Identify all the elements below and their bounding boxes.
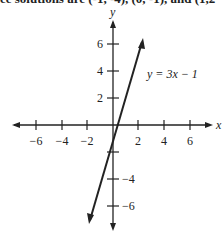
svg-text:−6: −6	[30, 134, 43, 148]
svg-text:−2: −2	[81, 134, 94, 148]
y-axis-up-arrow-icon	[110, 20, 116, 28]
y-axis-label: y	[109, 5, 116, 19]
x-axis-label: x	[215, 118, 222, 132]
svg-text:−4: −4	[122, 172, 135, 186]
svg-text:2: 2	[135, 134, 141, 148]
y-axis-down-arrow-icon	[110, 223, 116, 231]
x-axis-right-arrow-icon	[205, 122, 213, 128]
svg-text:6: 6	[187, 134, 193, 148]
svg-text:2: 2	[97, 91, 103, 105]
line-label: y = 3x − 1	[146, 67, 198, 81]
x-axis-left-arrow-icon	[12, 122, 20, 128]
svg-text:−4: −4	[56, 134, 69, 148]
svg-text:−6: −6	[122, 199, 135, 213]
coordinate-plane: −6 −4 −2 2 4 6 6 4 2 −4 −6 x y y = 3x − …	[0, 0, 224, 234]
svg-text:4: 4	[161, 134, 167, 148]
svg-text:6: 6	[97, 37, 103, 51]
line-top-arrow-icon	[138, 38, 145, 49]
line-bottom-arrow-icon	[87, 213, 94, 224]
svg-text:4: 4	[97, 64, 103, 78]
